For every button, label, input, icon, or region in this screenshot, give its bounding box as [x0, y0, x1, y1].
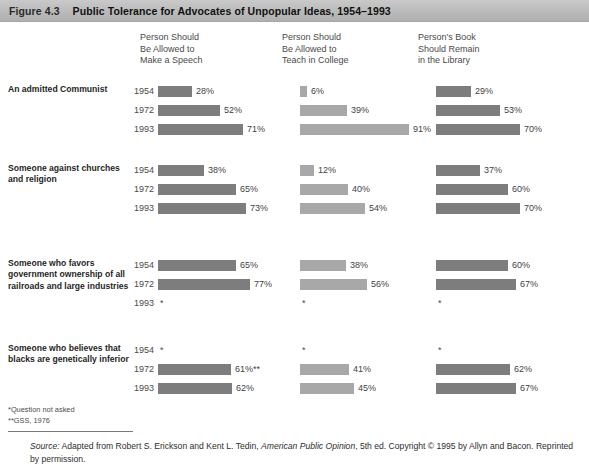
bar-row: 197240% — [276, 182, 370, 196]
bar-row: 199345% — [276, 381, 376, 395]
year-label: 1972 — [134, 184, 158, 194]
source-prefix: Source: — [30, 441, 60, 451]
bar-row: 195438% — [276, 258, 368, 272]
source-work-title: American Public Opinion — [261, 441, 355, 451]
bar-with-value: 41% — [300, 364, 371, 375]
bar — [158, 383, 232, 394]
bar — [158, 184, 236, 195]
bar-row: 1993* — [412, 296, 442, 310]
bar — [436, 165, 480, 176]
bar-row: 197241% — [276, 362, 371, 376]
bar-with-value: 52% — [158, 105, 242, 116]
figure-number: Figure 4.3 — [9, 5, 60, 17]
bar-with-value: 40% — [300, 184, 370, 195]
bar-row: 19546% — [276, 84, 324, 98]
bar — [300, 203, 365, 214]
year-label: 1993 — [134, 203, 158, 213]
bar — [300, 86, 307, 97]
bar-value-label: 60% — [512, 260, 530, 270]
no-data-marker: * — [438, 345, 442, 355]
bar-value-label: 62% — [236, 383, 254, 393]
bar — [436, 260, 508, 271]
bar-value-label: 52% — [224, 105, 242, 115]
bar-with-value: 37% — [436, 165, 502, 176]
bar-value-label: 28% — [196, 86, 214, 96]
bar-value-label: 6% — [311, 86, 324, 96]
bar-value-label: 39% — [351, 105, 369, 115]
bar-row: 199367% — [412, 381, 538, 395]
figure-title: Public Tolerance for Advocates of Unpopu… — [73, 5, 391, 17]
source-divider — [8, 431, 133, 432]
bar — [436, 364, 510, 375]
bar-with-value: 38% — [300, 260, 368, 271]
footnotes: *Question not asked **GSS, 1976 — [8, 405, 75, 426]
year-label: 1954 — [134, 260, 158, 270]
bar-row: 195428% — [134, 84, 214, 98]
bar-with-value: 73% — [158, 203, 268, 214]
bar-value-label: 54% — [369, 203, 387, 213]
row-group-label: Someone who believes that blacks are gen… — [8, 343, 134, 366]
bar-value-label: 29% — [475, 86, 493, 96]
bar — [158, 203, 246, 214]
row-group: Someone against churches and religion195… — [0, 163, 589, 226]
bar-row: 1954* — [276, 343, 306, 357]
bar-value-label: 37% — [484, 165, 502, 175]
bar-row: 197239% — [276, 103, 369, 117]
bar-value-label: 67% — [520, 383, 538, 393]
year-label: 1972 — [134, 105, 158, 115]
source-note: Source: Adapted from Robert S. Erickson … — [30, 440, 578, 465]
bar — [158, 260, 236, 271]
bar-with-value: 65% — [158, 260, 258, 271]
year-label: 1972 — [134, 279, 158, 289]
no-data-marker: * — [160, 298, 164, 308]
column-header-teach: Person Should Be Allowed to Teach in Col… — [282, 32, 349, 67]
year-label: 1993 — [134, 383, 158, 393]
bar — [436, 105, 500, 116]
bar-row: 195438% — [134, 163, 226, 177]
bar — [300, 279, 367, 290]
bar-row: 199371% — [134, 122, 265, 136]
bar-with-value: 28% — [158, 86, 214, 97]
bar-value-label: 70% — [524, 203, 542, 213]
bar-with-value: 62% — [436, 364, 532, 375]
bar-value-label: 67% — [520, 279, 538, 289]
bar-row: 195437% — [412, 163, 502, 177]
year-label: 1954 — [134, 345, 158, 355]
bar-with-value: 65% — [158, 184, 258, 195]
bar-row: 195460% — [412, 258, 530, 272]
bar-row: 199354% — [276, 201, 387, 215]
bar — [300, 124, 409, 135]
year-label: 1972 — [134, 364, 158, 374]
bar-value-label: 60% — [512, 184, 530, 194]
year-label: 1954 — [134, 165, 158, 175]
bar-row: 197277% — [134, 277, 272, 291]
year-label: 1993 — [134, 124, 158, 134]
bar-row: 1993* — [134, 296, 164, 310]
bar-with-value: 12% — [300, 165, 336, 176]
bar-value-label: 53% — [504, 105, 522, 115]
source-text-1: Adapted from Robert S. Erickson and Kent… — [60, 441, 261, 451]
row-group: Someone who favors government ownership … — [0, 258, 589, 321]
row-group: An admitted Communist195428%19546%195429… — [0, 84, 589, 147]
bar-with-value: 67% — [436, 279, 538, 290]
year-label: 1954 — [134, 86, 158, 96]
bar — [436, 86, 471, 97]
bar-with-value: 29% — [436, 86, 493, 97]
bar-value-label: 38% — [350, 260, 368, 270]
bar-row: 197260% — [412, 182, 530, 196]
bar-row: 197261%** — [134, 362, 260, 376]
no-data-marker: * — [160, 345, 164, 355]
row-group-label: Someone who favors government ownership … — [8, 258, 134, 292]
bar — [158, 86, 192, 97]
bar-row: 199391% — [276, 122, 431, 136]
bar-value-label: 41% — [353, 364, 371, 374]
no-data-marker: * — [302, 298, 306, 308]
bar-row: 195429% — [412, 84, 493, 98]
bar-row: 1954* — [412, 343, 442, 357]
no-data-marker: * — [302, 345, 306, 355]
bar-row: 1993* — [276, 296, 306, 310]
bar — [300, 260, 346, 271]
bar — [300, 165, 314, 176]
bar-value-label: 40% — [352, 184, 370, 194]
bar-row: 199370% — [412, 201, 542, 215]
